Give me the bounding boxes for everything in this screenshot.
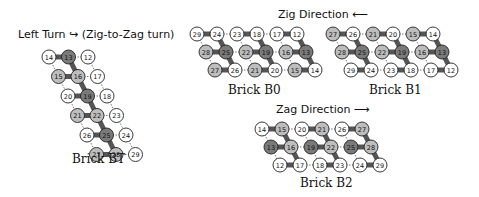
node-25: 25 (355, 45, 369, 59)
node-21: 21 (71, 109, 85, 123)
node-19: 19 (395, 45, 409, 59)
node-22: 22 (375, 45, 389, 59)
node-28: 28 (199, 45, 213, 59)
svg-text:22: 22 (378, 49, 386, 57)
node-13: 13 (435, 45, 449, 59)
svg-text:20: 20 (271, 67, 279, 75)
node-27: 27 (326, 27, 340, 41)
svg-text:25: 25 (102, 132, 110, 140)
node-14: 14 (308, 63, 322, 77)
svg-text:20: 20 (64, 93, 72, 101)
node-16: 16 (71, 70, 85, 84)
svg-text:14: 14 (258, 126, 266, 134)
svg-text:26: 26 (231, 67, 239, 75)
svg-text:14: 14 (311, 67, 319, 75)
svg-text:12: 12 (276, 162, 284, 170)
svg-text:23: 23 (233, 31, 241, 39)
svg-text:29: 29 (193, 31, 201, 39)
brick-b2-caption: Brick B2 (300, 176, 353, 190)
brick-bt: 141312151617201918212223262524272829 (42, 50, 143, 162)
node-17: 17 (91, 70, 105, 84)
svg-text:17: 17 (273, 31, 281, 39)
brick-b1-caption: Brick B1 (369, 83, 422, 97)
svg-text:16: 16 (282, 49, 290, 57)
node-16: 16 (284, 140, 298, 154)
svg-text:22: 22 (242, 49, 250, 57)
svg-text:26: 26 (338, 126, 346, 134)
svg-text:24: 24 (213, 31, 221, 39)
node-29: 29 (190, 27, 204, 41)
node-20: 20 (61, 89, 75, 103)
svg-text:18: 18 (103, 93, 111, 101)
svg-text:19: 19 (307, 144, 315, 152)
node-27: 27 (208, 63, 222, 77)
node-16: 16 (279, 45, 293, 59)
node-16: 16 (415, 45, 429, 59)
node-15: 15 (52, 70, 66, 84)
node-21: 21 (366, 27, 380, 41)
node-18: 18 (100, 89, 114, 103)
svg-text:29: 29 (376, 162, 384, 170)
node-18: 18 (404, 63, 418, 77)
svg-text:13: 13 (267, 144, 275, 152)
node-24: 24 (210, 27, 224, 41)
node-19: 19 (304, 140, 318, 154)
node-23: 23 (333, 158, 347, 172)
node-25: 25 (100, 128, 114, 142)
node-20: 20 (386, 27, 400, 41)
svg-text:29: 29 (131, 151, 139, 159)
node-13: 13 (264, 140, 278, 154)
node-24: 24 (353, 158, 367, 172)
svg-text:17: 17 (296, 162, 304, 170)
node-12: 12 (81, 50, 95, 64)
svg-text:12: 12 (447, 67, 455, 75)
svg-text:19: 19 (398, 49, 406, 57)
node-22: 22 (239, 45, 253, 59)
svg-text:14: 14 (45, 54, 53, 62)
svg-text:18: 18 (407, 67, 415, 75)
node-19: 19 (259, 45, 273, 59)
svg-text:18: 18 (253, 31, 261, 39)
node-12: 12 (290, 27, 304, 41)
brick-b0: 292423181712282522191613272621201514 (190, 27, 322, 77)
node-25: 25 (344, 140, 358, 154)
svg-text:13: 13 (64, 54, 72, 62)
svg-text:21: 21 (73, 112, 81, 120)
node-15: 15 (275, 122, 289, 136)
svg-text:20: 20 (298, 126, 306, 134)
node-23: 23 (230, 27, 244, 41)
svg-text:29: 29 (347, 67, 355, 75)
node-14: 14 (255, 122, 269, 136)
svg-text:16: 16 (287, 144, 295, 152)
node-24: 24 (364, 63, 378, 77)
svg-text:28: 28 (367, 144, 375, 152)
svg-text:24: 24 (356, 162, 364, 170)
node-13: 13 (62, 50, 76, 64)
svg-text:17: 17 (427, 67, 435, 75)
svg-text:27: 27 (329, 31, 337, 39)
brick-b0-caption: Brick B0 (228, 83, 281, 97)
node-21: 21 (248, 63, 262, 77)
svg-text:22: 22 (93, 112, 101, 120)
brick-bt-caption: Brick BT (72, 152, 125, 166)
svg-text:17: 17 (93, 73, 101, 81)
svg-text:21: 21 (318, 126, 326, 134)
node-20: 20 (295, 122, 309, 136)
svg-text:28: 28 (202, 49, 210, 57)
node-12: 12 (273, 158, 287, 172)
node-26: 26 (346, 27, 360, 41)
node-23: 23 (384, 63, 398, 77)
node-25: 25 (219, 45, 233, 59)
svg-text:16: 16 (74, 73, 82, 81)
svg-text:19: 19 (262, 49, 270, 57)
node-29: 29 (344, 63, 358, 77)
node-29: 29 (373, 158, 387, 172)
node-24: 24 (119, 128, 133, 142)
svg-text:15: 15 (278, 126, 286, 134)
brick-diagram: 1413121516172019182122232625242728292924… (0, 0, 479, 197)
svg-text:28: 28 (338, 49, 346, 57)
svg-text:18: 18 (316, 162, 324, 170)
svg-text:24: 24 (367, 67, 375, 75)
brick-b1: 272621201514282522191613292423181712 (326, 27, 458, 77)
node-22: 22 (324, 140, 338, 154)
